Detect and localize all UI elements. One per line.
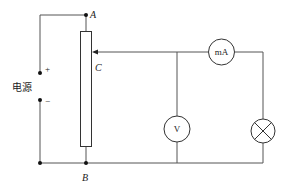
- node-b: [84, 161, 88, 165]
- label-plus: +: [45, 64, 50, 74]
- node-bottom-left: [38, 161, 42, 165]
- lamp-icon: [251, 119, 275, 143]
- node-a: [84, 13, 88, 17]
- ammeter: mA: [209, 39, 235, 65]
- wire-bottom: [40, 100, 263, 163]
- label-a: A: [89, 9, 97, 20]
- label-minus: −: [45, 96, 50, 106]
- ammeter-label: mA: [215, 47, 229, 57]
- terminal-minus: [38, 98, 42, 102]
- wire-ammeter-to-lamp: [235, 52, 263, 119]
- label-b: B: [82, 172, 88, 183]
- label-power-source: 电源: [12, 81, 32, 93]
- label-c: C: [95, 62, 102, 73]
- rheostat: [81, 32, 92, 147]
- voltmeter-label: V: [174, 124, 181, 134]
- voltmeter: V: [164, 116, 190, 142]
- circuit-diagram: mA V A B C + − 电源: [0, 0, 286, 189]
- terminal-plus: [38, 71, 42, 75]
- slider-arrow-icon: [92, 50, 98, 55]
